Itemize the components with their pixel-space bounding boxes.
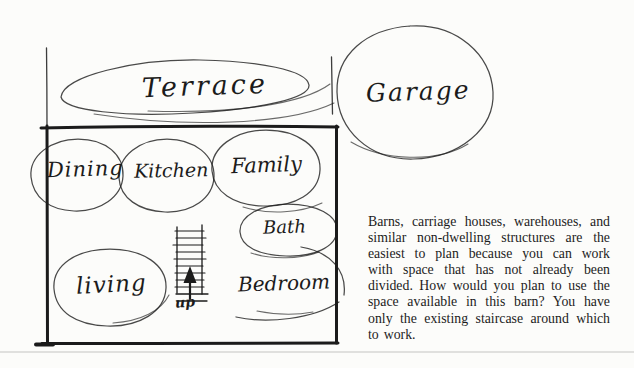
staircase-up-label: up (174, 293, 195, 310)
staircase (173, 225, 208, 301)
room-label-garage: Garage (366, 75, 471, 108)
book-page: Terrace Garage Dining Kitchen Family Bat… (0, 0, 634, 368)
bedroom-underline-stroke (257, 311, 313, 314)
room-label-living: living (75, 269, 147, 299)
bedroom-arc-bottom (236, 302, 339, 320)
bottom-wall (42, 343, 338, 344)
caption-text: Barns, carriage houses, warehouses, and … (368, 214, 610, 343)
room-label-bath: Bath (263, 215, 307, 237)
room-label-dining: Dining (47, 156, 125, 183)
garage-tail-stroke (351, 142, 468, 157)
room-label-terrace: Terrace (141, 68, 268, 103)
up-arrow-head (184, 266, 197, 283)
right-wall-extension-line (332, 57, 333, 114)
room-label-kitchen: Kitchen (134, 158, 209, 181)
room-label-bedroom: Bedroom (238, 269, 331, 296)
left-wall-extension-line (47, 48, 48, 127)
living-tail-stroke (113, 295, 169, 323)
page-divider-rule (0, 351, 634, 353)
room-label-family: Family (231, 152, 303, 178)
terrace-tail-stroke-2 (94, 103, 334, 123)
top-wall (41, 126, 338, 128)
